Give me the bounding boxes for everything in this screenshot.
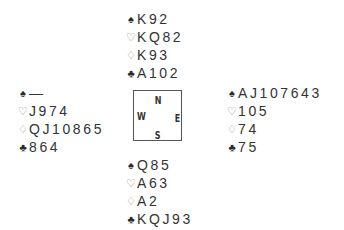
- heart-icon: ♡: [226, 102, 238, 120]
- west-spades-cards: —: [29, 84, 46, 102]
- west-clubs-cards: 864: [29, 138, 60, 156]
- north-clubs-cards: A102: [137, 64, 180, 82]
- west-hearts-cards: J974: [29, 102, 70, 120]
- diamond-icon: ♢: [125, 192, 137, 210]
- heart-icon: ♡: [125, 174, 137, 192]
- heart-icon: ♡: [125, 28, 137, 46]
- compass-west-label: W: [137, 112, 146, 122]
- north-hearts-cards: KQ82: [137, 28, 183, 46]
- west-diamonds-cards: QJ10865: [29, 120, 104, 138]
- compass-box: N W E S: [133, 90, 182, 141]
- east-clubs-cards: 75: [238, 138, 259, 156]
- east-diamonds-cards: 74: [238, 120, 259, 138]
- east-hearts-cards: 105: [238, 102, 269, 120]
- spade-icon: ♠: [226, 84, 238, 102]
- club-icon: ♣: [125, 64, 137, 82]
- club-icon: ♣: [226, 138, 238, 156]
- club-icon: ♣: [17, 138, 29, 156]
- diamond-icon: ♢: [17, 120, 29, 138]
- compass-south-label: S: [155, 131, 161, 141]
- south-clubs-cards: KQJ93: [137, 210, 193, 228]
- north-diamonds-cards: K93: [137, 46, 170, 64]
- south-diamonds-cards: A2: [137, 192, 159, 210]
- compass-north-label: N: [155, 96, 162, 106]
- spade-icon: ♠: [17, 84, 29, 102]
- diamond-icon: ♢: [226, 120, 238, 138]
- compass-east-label: E: [175, 114, 180, 124]
- heart-icon: ♡: [17, 102, 29, 120]
- south-spades-cards: Q85: [137, 156, 171, 174]
- south-hearts-cards: A63: [137, 174, 170, 192]
- spade-icon: ♠: [125, 10, 137, 28]
- north-spades-cards: K92: [137, 10, 170, 28]
- club-icon: ♣: [125, 210, 137, 228]
- spade-icon: ♠: [125, 156, 137, 174]
- diamond-icon: ♢: [125, 46, 137, 64]
- east-spades-cards: AJ107643: [238, 84, 322, 102]
